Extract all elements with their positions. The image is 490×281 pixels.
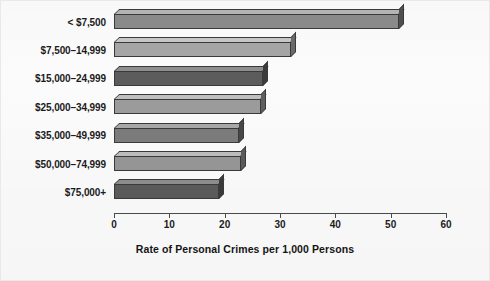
x-axis-title: Rate of Personal Crimes per 1,000 Person… xyxy=(1,243,489,255)
x-axis-tick-label-60: 60 xyxy=(440,220,451,230)
category-label-1: $7,500–14,999 xyxy=(0,46,106,56)
category-label-4: $35,000–49,999 xyxy=(0,131,106,141)
x-axis-tick-label-0: 0 xyxy=(111,220,117,230)
bar-front-face-1 xyxy=(114,42,291,57)
bar-front-face-2 xyxy=(114,71,263,86)
bar-front-face-5 xyxy=(114,156,241,171)
x-axis-tick-label-30: 30 xyxy=(274,220,285,230)
bar-side-face-2 xyxy=(263,61,268,86)
x-axis-tick-label-40: 40 xyxy=(330,220,341,230)
bar-side-face-0 xyxy=(399,4,404,29)
x-axis-tick-60 xyxy=(446,213,447,218)
x-axis-tick-50 xyxy=(391,213,392,218)
x-axis-tick-0 xyxy=(114,213,115,218)
plot-area xyxy=(114,9,454,209)
bar-front-face-4 xyxy=(114,128,239,143)
bar-4 xyxy=(114,123,239,138)
bar-side-face-5 xyxy=(241,146,246,171)
bar-2 xyxy=(114,66,263,81)
bar-6 xyxy=(114,179,219,194)
category-label-2: $15,000–24,999 xyxy=(0,74,106,84)
x-axis-tick-10 xyxy=(169,213,170,218)
x-axis-tick-label-50: 50 xyxy=(385,220,396,230)
category-label-6: $75,000+ xyxy=(0,188,106,198)
bar-3 xyxy=(114,94,261,109)
bar-side-face-1 xyxy=(291,32,296,57)
x-axis-tick-20 xyxy=(225,213,226,218)
bar-side-face-3 xyxy=(261,89,266,114)
x-axis-tick-40 xyxy=(335,213,336,218)
x-axis-tick-label-10: 10 xyxy=(164,220,175,230)
bar-side-face-4 xyxy=(239,117,244,142)
bar-chart-figure: < $7,500 $7,500–14,999 $15,000–24,999 $2… xyxy=(0,0,490,281)
category-label-0: < $7,500 xyxy=(0,18,106,28)
category-label-3: $25,000–34,999 xyxy=(0,103,106,113)
bar-5 xyxy=(114,151,241,166)
category-label-5: $50,000–74,999 xyxy=(0,160,106,170)
bar-front-face-6 xyxy=(114,184,219,199)
bar-side-face-6 xyxy=(219,174,224,199)
bar-front-face-0 xyxy=(114,14,399,29)
bar-1 xyxy=(114,37,291,52)
bar-front-face-3 xyxy=(114,99,261,114)
x-axis-tick-label-20: 20 xyxy=(219,220,230,230)
bar-0 xyxy=(114,9,399,24)
x-axis-tick-30 xyxy=(280,213,281,218)
category-axis-labels: < $7,500 $7,500–14,999 $15,000–24,999 $2… xyxy=(1,1,111,209)
